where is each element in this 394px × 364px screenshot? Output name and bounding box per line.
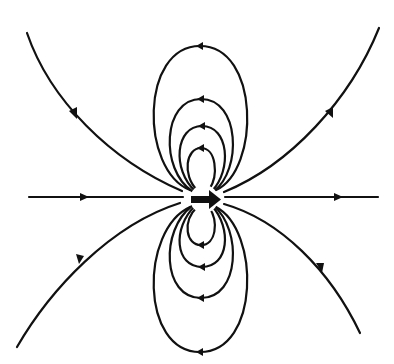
top-loop-2 xyxy=(180,126,225,191)
arrowhead-icon xyxy=(197,144,204,152)
top-loop-1 xyxy=(188,148,215,190)
arrowhead-icon xyxy=(197,294,204,302)
outer-field-line-bottom-right xyxy=(224,204,360,333)
arrowhead-icon xyxy=(198,263,205,271)
top-loops xyxy=(154,42,248,191)
bottom-loop-4 xyxy=(154,207,248,352)
arrowhead-icon xyxy=(196,42,203,50)
outer-field-line-bottom-left xyxy=(17,203,180,347)
top-loop-4 xyxy=(154,46,248,190)
bottom-loops xyxy=(154,206,248,356)
arrowhead-icon xyxy=(198,122,205,130)
arrowhead-icon xyxy=(197,241,204,249)
dipole-arrow-shaft xyxy=(191,196,211,203)
arrowhead-icon xyxy=(197,95,204,103)
arrowhead-icon xyxy=(80,193,89,201)
field-lines-canvas xyxy=(0,0,394,364)
arrowhead-icon xyxy=(196,348,203,356)
dipole-field-diagram xyxy=(0,0,394,364)
arrowhead-icon xyxy=(334,193,343,201)
bottom-loop-2 xyxy=(180,206,225,267)
outer-field-line-top-left xyxy=(27,33,182,191)
